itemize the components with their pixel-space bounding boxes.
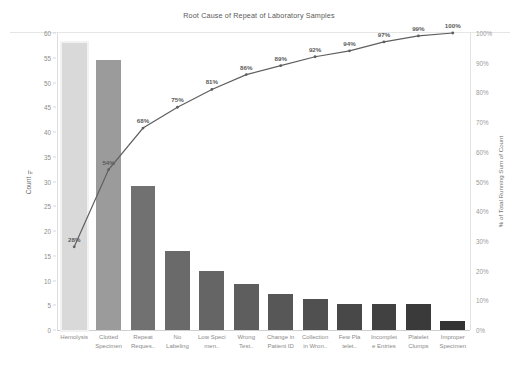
cumulative-pct-label-1: 54% <box>102 159 114 166</box>
pareto-line-points <box>73 32 454 249</box>
x-axis-label-line: Wrong <box>229 333 263 342</box>
cumulative-pct-label-5: 86% <box>240 64 252 71</box>
cumulative-pct-label-10: 99% <box>412 25 424 32</box>
x-axis-label-line: Specimen <box>436 342 470 351</box>
line-point-9[interactable] <box>383 41 386 44</box>
x-axis-label-line: men.. <box>195 342 229 351</box>
x-axis-label-line: Incomplet <box>367 333 401 342</box>
x-axis-label-9[interactable]: Incomplete Entries <box>367 333 401 350</box>
cumulative-pct-label-7: 92% <box>309 46 321 53</box>
line-point-6[interactable] <box>279 64 282 67</box>
x-axis-label-2[interactable]: RepeatReques.. <box>126 333 160 350</box>
line-point-2[interactable] <box>142 127 145 130</box>
line-point-10[interactable] <box>417 35 420 38</box>
x-axis-label-line: Platelet <box>401 333 435 342</box>
x-axis-label-4[interactable]: Low Specimen.. <box>195 333 229 350</box>
x-axis-label-8[interactable]: Few Platelet.. <box>332 333 366 350</box>
cumulative-pct-label-8: 94% <box>343 40 355 47</box>
x-axis-label-line: in Wron.. <box>298 342 332 351</box>
x-axis-label-line: Labeling <box>160 342 194 351</box>
x-axis-label-line: Reques.. <box>126 342 160 351</box>
x-axis-label-line: No <box>160 333 194 342</box>
cumulative-line-series <box>0 0 518 373</box>
cumulative-pct-label-9: 97% <box>378 31 390 38</box>
cumulative-pct-label-2: 68% <box>137 117 149 124</box>
x-axis-label-line: Few Pla <box>332 333 366 342</box>
cumulative-pct-label-3: 75% <box>171 96 183 103</box>
x-axis-label-line: Change in <box>264 333 298 342</box>
cumulative-pct-label-6: 89% <box>275 55 287 62</box>
x-axis-label-1[interactable]: ClottedSpecimen <box>91 333 125 350</box>
line-point-0[interactable] <box>73 245 76 248</box>
x-axis-label-5[interactable]: WrongTest.. <box>229 333 263 350</box>
x-axis-label-6[interactable]: Change inPatient ID <box>264 333 298 350</box>
cumulative-pct-label-4: 81% <box>206 78 218 85</box>
x-axis-label-line: Clumps <box>401 342 435 351</box>
line-point-8[interactable] <box>348 49 351 52</box>
x-axis-label-line: Test.. <box>229 342 263 351</box>
x-axis-label-line: Patient ID <box>264 342 298 351</box>
line-point-3[interactable] <box>176 106 179 109</box>
x-axis-label-line: Repeat <box>126 333 160 342</box>
x-axis-label-line: Improper <box>436 333 470 342</box>
x-axis-label-line: Hemolysis <box>57 333 91 342</box>
x-axis-label-line: Collection <box>298 333 332 342</box>
line-point-1[interactable] <box>107 168 110 171</box>
x-axis-label-11[interactable]: ImproperSpecimen <box>436 333 470 350</box>
x-axis-label-3[interactable]: NoLabeling <box>160 333 194 350</box>
x-axis-label-line: Specimen <box>91 342 125 351</box>
x-axis-label-0[interactable]: Hemolysis <box>57 333 91 342</box>
line-point-11[interactable] <box>451 32 454 35</box>
x-axis-label-line: telet.. <box>332 342 366 351</box>
x-axis-label-line: e Entries <box>367 342 401 351</box>
x-axis-label-line: Low Speci <box>195 333 229 342</box>
line-point-4[interactable] <box>210 88 213 91</box>
x-axis-label-7[interactable]: Collectionin Wron.. <box>298 333 332 350</box>
cumulative-pct-label-0: 28% <box>68 236 80 243</box>
x-axis-label-10[interactable]: PlateletClumps <box>401 333 435 350</box>
cumulative-pct-label-11: 100% <box>445 22 461 29</box>
pareto-chart: Root Cause of Repeat of Laboratory Sampl… <box>0 0 518 373</box>
x-axis-label-line: Clotted <box>91 333 125 342</box>
x-axis-labels: HemolysisClottedSpecimenRepeatReques..No… <box>57 333 470 363</box>
line-point-7[interactable] <box>314 55 317 58</box>
line-point-5[interactable] <box>245 73 248 76</box>
pareto-line-path <box>74 33 453 247</box>
